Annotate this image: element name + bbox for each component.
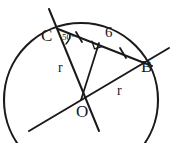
radius-label-left: r bbox=[58, 61, 63, 75]
radius-label-right: r bbox=[117, 84, 122, 98]
point-label-b: B bbox=[141, 58, 152, 75]
point-label-c: C bbox=[41, 27, 52, 44]
geometry-diagram: C B O 50° 6 r r bbox=[0, 0, 173, 143]
line-through-c-and-o bbox=[49, 9, 99, 131]
point-label-o: O bbox=[76, 103, 88, 120]
angle-measure-label: 50° bbox=[62, 33, 75, 42]
chord-length-label: 6 bbox=[105, 25, 113, 40]
